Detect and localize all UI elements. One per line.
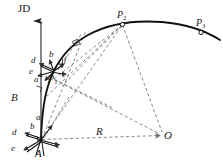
construction-lines: [42, 24, 162, 140]
offset-label-e-p1: e: [29, 67, 33, 76]
offset-label-e-at-a: e: [11, 144, 15, 153]
offset-label-c-p1: c: [62, 70, 66, 79]
point-label-b: B: [11, 92, 18, 103]
offset-label-c-at-a: c: [56, 141, 60, 150]
tangent-short-above-p1: [58, 33, 82, 70]
point-label-p1: P1: [48, 74, 57, 84]
radius-line-p1-o: [55, 80, 160, 134]
point-marker-p2: [120, 22, 124, 26]
right-angle-mark-p1-lower: [37, 86, 42, 92]
offset-label-b-p1: b: [49, 50, 54, 59]
point-label-a: A: [35, 148, 42, 159]
radius-line-p2-o: [123, 25, 163, 132]
circular-curve: [41, 22, 220, 141]
chord-line-p1-lower-right: [54, 79, 113, 108]
point-label-p3-index: 3: [202, 22, 205, 29]
offset-label-d-p1: d: [31, 56, 36, 65]
offset-label-b-at-a: b: [30, 122, 35, 131]
point-label-o: O: [164, 130, 172, 141]
chord-line-p2-to-a-region: [47, 25, 122, 96]
curve-setting-diagram: JD B A O R P1 P2 P3 d b e a f c a b d e …: [0, 0, 223, 167]
curve-point-markers: [120, 22, 203, 34]
jd-axis-label: JD: [18, 3, 30, 14]
point-label-p3: P3: [196, 18, 205, 28]
point-label-p2: P2: [117, 10, 126, 20]
offset-label-a-p1: a: [34, 75, 39, 84]
point-label-p1-index: 1: [54, 78, 57, 85]
radius-label-r: R: [96, 126, 103, 137]
point-label-p2-index: 2: [123, 14, 126, 21]
offset-label-d-at-a: d: [12, 128, 17, 137]
right-angle-marks: [37, 39, 80, 141]
chord-line-p2-lower-left: [62, 25, 122, 86]
offset-label-a-at-a: a: [36, 113, 41, 122]
point-marker-p3: [199, 30, 203, 34]
offset-label-f-p1: f: [64, 55, 66, 64]
